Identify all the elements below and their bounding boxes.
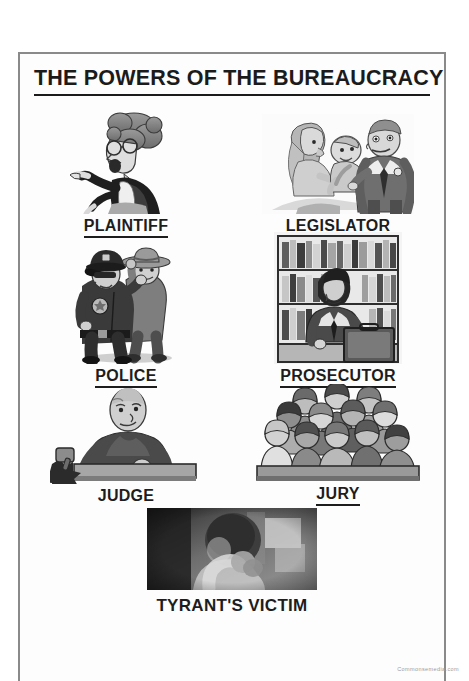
caption-tyrants-victim: TYRANT'S VICTIM — [156, 596, 307, 616]
title-container: THE POWERS OF THE BUREAUCRACY — [20, 66, 444, 96]
watermark-text: Commonsemedia.com — [397, 666, 459, 672]
legislator-illustration — [232, 106, 444, 214]
plaintiff-illustration — [20, 106, 232, 214]
power-cell-plaintiff: PLAINTIFF — [20, 106, 232, 238]
power-cell-police: POLICE — [20, 238, 232, 388]
powers-grid: PLAINTIFF — [20, 106, 444, 506]
prosecutor-illustration — [232, 232, 444, 364]
caption-police: POLICE — [95, 367, 156, 388]
caption-plaintiff: PLAINTIFF — [84, 217, 168, 238]
police-officer-arresting-suspect-icon — [64, 236, 188, 364]
judge-illustration — [20, 386, 232, 484]
caption-judge: JUDGE — [98, 487, 155, 506]
power-cell-judge: JUDGE — [20, 388, 232, 506]
police-illustration — [20, 236, 232, 364]
twelve-jurors-crowd-icon — [255, 384, 421, 482]
power-cell-legislator: LEGISLATOR — [232, 106, 444, 238]
jury-illustration — [232, 384, 444, 482]
poster-page: THE POWERS OF THE BUREAUCRACY — [18, 52, 446, 681]
page-title: THE POWERS OF THE BUREAUCRACY — [34, 66, 430, 96]
caption-jury: JURY — [316, 485, 359, 506]
tyrants-victim-photo — [147, 508, 317, 590]
crying-baby-photo-icon — [147, 508, 317, 590]
judge-at-bench-with-gavel-icon — [50, 386, 202, 484]
angry-woman-pointing-icon — [68, 110, 184, 214]
power-cell-prosecutor: PROSECUTOR — [232, 238, 444, 388]
lawyer-with-briefcase-in-law-library-icon — [274, 232, 402, 364]
tyrants-victim-block: TYRANT'S VICTIM — [20, 508, 444, 616]
power-cell-jury: JURY — [232, 388, 444, 506]
politician-kissing-baby-icon — [262, 114, 414, 214]
